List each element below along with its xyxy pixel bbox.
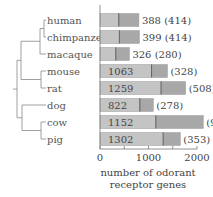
bar-value-intact: 822 xyxy=(108,100,127,111)
x-tick-label: 2000 xyxy=(184,152,209,163)
bar-cow: 1152(977) xyxy=(100,116,213,129)
species-label-macaque: macaque xyxy=(47,49,93,60)
species-label-dog: dog xyxy=(47,100,66,111)
bar-value-intact: 1259 xyxy=(108,83,133,94)
bar-value: 388 (414) xyxy=(142,15,191,26)
bar-chimpanzee: 399 (414) xyxy=(100,31,192,44)
bar-pseudo xyxy=(156,116,203,129)
x-tick-label: 1000 xyxy=(136,152,161,163)
x-tick-label: 0 xyxy=(97,152,103,163)
bar-macaque: 326 (280) xyxy=(100,48,182,61)
bar-value-intact: 1302 xyxy=(108,134,133,145)
bar-value-intact: 1152 xyxy=(108,117,133,128)
phylogenetic-tree xyxy=(13,20,46,139)
bar-value: 399 (414) xyxy=(142,32,191,43)
bars: 388 (414)399 (414)326 (280)1063(328)1259… xyxy=(100,14,213,146)
bar-pseudo xyxy=(152,65,168,78)
bar-value-pseudo: (328) xyxy=(170,66,197,77)
species-label-rat: rat xyxy=(47,83,62,94)
bar-pseudo xyxy=(140,99,153,112)
bar-value-pseudo: (508) xyxy=(189,83,213,94)
bar-value: 326 (280) xyxy=(132,49,181,60)
bar-rat: 1259(508) xyxy=(100,82,213,95)
species-label-cow: cow xyxy=(47,117,68,128)
bar-intact xyxy=(100,14,119,27)
species-labels: humanchimpanzeemacaquemouseratdogcowpig xyxy=(47,15,108,145)
species-label-chimpanzee: chimpanzee xyxy=(47,32,108,43)
bar-value-pseudo: (353) xyxy=(183,134,210,145)
bar-value-pseudo: (278) xyxy=(156,100,183,111)
bar-human: 388 (414) xyxy=(100,14,191,27)
bar-pseudo xyxy=(163,133,180,146)
bar-pseudo xyxy=(116,48,130,61)
bar-pseudo xyxy=(161,82,186,95)
species-label-mouse: mouse xyxy=(47,66,80,77)
bar-pig: 1302(353) xyxy=(100,133,210,146)
species-label-human: human xyxy=(47,15,82,26)
bar-intact xyxy=(100,48,116,61)
bar-pseudo xyxy=(119,31,139,44)
x-axis-label: number of odorant xyxy=(100,167,195,178)
bar-pseudo xyxy=(119,14,139,27)
bar-intact xyxy=(100,31,119,44)
bar-dog: 822(278) xyxy=(100,99,183,112)
bar-value-pseudo: (977) xyxy=(206,117,213,128)
odorant-receptor-chart: humanchimpanzeemacaquemouseratdogcowpig … xyxy=(0,0,213,197)
species-label-pig: pig xyxy=(47,134,64,145)
bar-mouse: 1063(328) xyxy=(100,65,197,78)
x-axis-label: receptor genes xyxy=(110,179,186,190)
bar-value-intact: 1063 xyxy=(108,66,133,77)
